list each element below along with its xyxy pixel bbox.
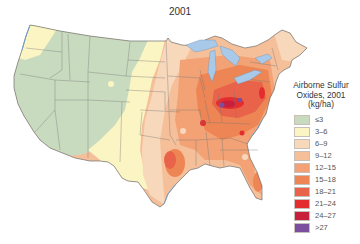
legend-swatch — [294, 187, 310, 197]
legend-swatch — [294, 139, 310, 149]
legend-label: ≤3 — [315, 115, 323, 124]
legend-item: 12–15 — [294, 162, 359, 174]
legend-item: 3–6 — [294, 126, 359, 138]
legend-swatch — [294, 115, 310, 125]
legend-item: 9–12 — [294, 150, 359, 162]
legend-swatch — [294, 127, 310, 137]
legend-swatch — [294, 199, 310, 209]
legend-item: >27 — [294, 222, 359, 234]
legend-label: 24–27 — [315, 211, 336, 220]
legend-label: 12–15 — [315, 163, 336, 172]
legend-label: 18–21 — [315, 187, 336, 196]
legend-swatch — [294, 175, 310, 185]
legend-swatch — [294, 151, 310, 161]
legend-item: 6–9 — [294, 138, 359, 150]
legend-swatch — [294, 163, 310, 173]
legend-label: 6–9 — [315, 139, 328, 148]
legend-label: 21–24 — [315, 199, 336, 208]
legend-label: >27 — [315, 223, 328, 232]
legend-swatch — [294, 223, 310, 233]
legend-label: 3–6 — [315, 127, 328, 136]
legend: Airborne Sulfur Oxides, 2001 (kg/ha) ≤33… — [283, 81, 359, 234]
legend-label: 9–12 — [315, 151, 332, 160]
legend-item: ≤3 — [294, 114, 359, 126]
legend-title-units: (kg/ha) — [283, 100, 359, 110]
legend-item: 21–24 — [294, 198, 359, 210]
legend-items: ≤33–66–99–1212–1515–1818–2121–2424–27>27 — [294, 114, 359, 234]
legend-label: 15–18 — [315, 175, 336, 184]
legend-item: 15–18 — [294, 174, 359, 186]
legend-title: Airborne Sulfur Oxides, 2001 (kg/ha) — [283, 81, 359, 110]
legend-item: 18–21 — [294, 186, 359, 198]
legend-swatch — [294, 211, 310, 221]
legend-item: 24–27 — [294, 210, 359, 222]
